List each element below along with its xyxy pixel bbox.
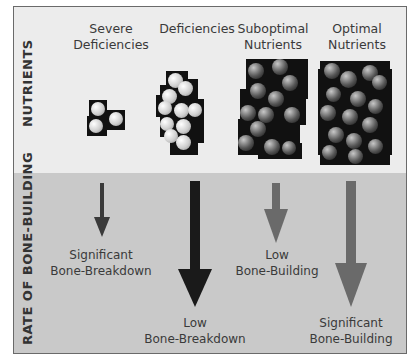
diagram-frame: NUTRIENTS RATE OF BONE-BUILDING Severe D…	[13, 6, 407, 354]
outcome-line-2: Bone-Breakdown	[130, 331, 260, 347]
column-header-optimal-nutrients: Optimal Nutrients	[307, 21, 407, 53]
outcome-line-2: Bone-Building	[286, 331, 407, 347]
outcome-line-2: Bone-Building	[212, 263, 342, 279]
header-line-2: Deficiencies	[61, 37, 161, 53]
column-header-severe-deficiencies: Severe Deficiencies	[61, 21, 161, 53]
arrow-down-icon	[264, 183, 288, 243]
header-line-1: Optimal	[307, 21, 407, 37]
outcome-line-1: Significant	[286, 315, 407, 331]
outcome-label-optimal: Significant Bone-Building	[286, 315, 407, 347]
arrow-down-icon	[335, 181, 367, 307]
nutrients-axis-label: NUTRIENTS	[20, 39, 35, 127]
header-line-1: Severe	[61, 21, 161, 37]
arrow-down-icon	[178, 181, 212, 307]
arrow-down-icon	[92, 183, 112, 239]
outcome-label-deficiencies: Low Bone-Breakdown	[130, 315, 260, 347]
header-line-2: Nutrients	[307, 37, 407, 53]
outcome-line-2: Bone-Breakdown	[36, 263, 166, 279]
outcome-line-1: Significant	[36, 247, 166, 263]
outcome-line-1: Low	[212, 247, 342, 263]
outcome-line-1: Low	[130, 315, 260, 331]
outcome-label-severe: Significant Bone-Breakdown	[36, 247, 166, 279]
bone-building-axis-label: RATE OF BONE-BUILDING	[20, 152, 35, 345]
outcome-label-suboptimal: Low Bone-Building	[212, 247, 342, 279]
